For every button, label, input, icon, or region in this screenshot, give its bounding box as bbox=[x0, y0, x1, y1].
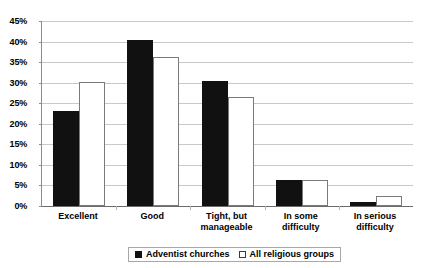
legend-label: All religious groups bbox=[250, 250, 335, 259]
bar-chart: 0%5%10%15%20%25%30%35%40%45% ExcellentGo… bbox=[0, 0, 423, 268]
bar-adventist bbox=[127, 40, 153, 206]
y-axis-tick-label: 20% bbox=[0, 120, 27, 129]
y-axis-tick-mark bbox=[39, 83, 42, 84]
legend-item: All religious groups bbox=[239, 250, 335, 259]
bar-adventist bbox=[350, 202, 376, 206]
bar-allgroups bbox=[79, 82, 105, 206]
bar-adventist bbox=[276, 180, 302, 206]
bar-adventist bbox=[53, 111, 79, 206]
bar-allgroups bbox=[153, 57, 179, 206]
bar-adventist bbox=[202, 81, 228, 206]
y-axis-tick-mark bbox=[39, 206, 42, 207]
y-axis-tick-mark bbox=[39, 165, 42, 166]
y-axis-tick-label: 35% bbox=[0, 58, 27, 67]
filled-square-swatch bbox=[135, 251, 142, 258]
y-axis-tick-label: 15% bbox=[0, 140, 27, 149]
bar-allgroups bbox=[376, 196, 402, 206]
gridline bbox=[42, 62, 413, 63]
y-axis-tick-mark bbox=[39, 21, 42, 22]
x-axis-category-label: In seriousdifficulty bbox=[327, 211, 423, 233]
x-axis-tick-mark bbox=[265, 206, 266, 210]
x-axis-tick-mark bbox=[116, 206, 117, 210]
bar-allgroups bbox=[228, 97, 254, 206]
y-axis-tick-label: 0% bbox=[0, 202, 27, 211]
y-axis-tick-label: 45% bbox=[0, 17, 27, 26]
y-axis-tick-mark bbox=[39, 103, 42, 104]
y-axis-tick-mark bbox=[39, 185, 42, 186]
x-axis-tick-mark bbox=[190, 206, 191, 210]
gridline bbox=[42, 21, 413, 22]
y-axis-tick-mark bbox=[39, 144, 42, 145]
legend-item: Adventist churches bbox=[135, 250, 230, 259]
chart-legend: Adventist churchesAll religious groups bbox=[128, 247, 341, 262]
bar-allgroups bbox=[302, 180, 328, 206]
legend-label: Adventist churches bbox=[146, 250, 230, 259]
y-axis-tick-mark bbox=[39, 42, 42, 43]
y-axis-tick-mark bbox=[39, 62, 42, 63]
x-axis-tick-mark bbox=[339, 206, 340, 210]
category-label-line: difficulty bbox=[327, 222, 423, 233]
y-axis-tick-label: 10% bbox=[0, 161, 27, 170]
y-axis-tick-label: 25% bbox=[0, 99, 27, 108]
y-axis-tick-label: 5% bbox=[0, 181, 27, 190]
hollow-square-swatch bbox=[239, 251, 246, 258]
gridline bbox=[42, 42, 413, 43]
plot-area: 0%5%10%15%20%25%30%35%40%45% bbox=[41, 21, 413, 207]
y-axis-tick-mark bbox=[39, 124, 42, 125]
y-axis-tick-label: 40% bbox=[0, 38, 27, 47]
y-axis-tick-label: 30% bbox=[0, 79, 27, 88]
category-label-line: In serious bbox=[327, 211, 423, 222]
